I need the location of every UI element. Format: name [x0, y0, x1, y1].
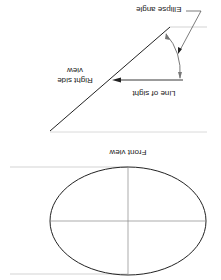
- ellipse-angle-arc: [166, 34, 180, 78]
- right-side-view-label-line2: view: [67, 66, 83, 75]
- arc-arrowhead-bottom: [178, 72, 182, 79]
- ellipse-angle-label: Ellipse angle: [135, 5, 181, 14]
- line-of-sight-label: Line of sight: [132, 89, 176, 98]
- ellipse-projection-diagram: Ellipse angle Line of sight Right side v…: [0, 0, 221, 280]
- front-view-label: Front view: [109, 148, 146, 157]
- diagram-canvas: Ellipse angle Line of sight Right side v…: [0, 0, 221, 280]
- line-of-sight-arrowhead: [112, 78, 121, 83]
- bottom-section: Front view: [10, 148, 206, 275]
- top-section: Ellipse angle Line of sight Right side v…: [50, 5, 207, 132]
- right-side-view-label-line1: Right side: [57, 76, 93, 85]
- arc-arrowhead-top: [165, 33, 170, 40]
- ellipse-angle-leader: [179, 11, 201, 52]
